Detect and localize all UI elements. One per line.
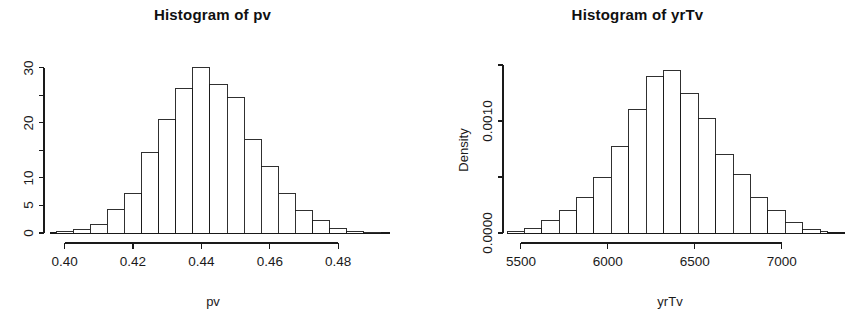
histogram-bar <box>295 211 312 233</box>
y-tick-label: 0.0010 <box>481 100 495 141</box>
y-tick-label: 20 <box>22 115 36 130</box>
histogram-bar <box>803 230 820 233</box>
x-tick-label: 0.40 <box>51 255 77 269</box>
histogram-bar <box>507 232 524 233</box>
histogram-bar <box>124 193 141 233</box>
histogram-bar <box>681 93 698 233</box>
y-tick-label: 30 <box>22 60 36 75</box>
y-tick-label: 10 <box>22 170 36 185</box>
figure-canvas: Histogram of pv pv 0.400.420.440.460.480… <box>0 0 850 317</box>
histogram-bar <box>330 228 347 233</box>
x-axis-title-pv: pv <box>206 295 220 308</box>
histogram-bar <box>227 98 244 233</box>
x-axis-title-yrtv: yrTv <box>657 295 682 308</box>
histogram-bar <box>820 232 827 233</box>
histogram-bar <box>524 229 541 233</box>
histogram-bar <box>244 139 261 233</box>
histogram-bar <box>261 167 278 233</box>
histogram-bar <box>56 232 73 233</box>
x-tick-label: 7000 <box>767 255 797 269</box>
histogram-bar <box>278 193 295 233</box>
histogram-bar <box>594 177 611 233</box>
histogram-bar <box>750 197 767 233</box>
y-axis-title-density: Density <box>457 128 470 171</box>
histogram-bar <box>90 224 107 233</box>
histogram-bar <box>768 211 785 233</box>
histogram-bar <box>733 175 750 233</box>
panel-histogram-pv: Histogram of pv pv 0.400.420.440.460.480… <box>0 0 425 317</box>
histogram-bar <box>716 155 733 233</box>
panel-histogram-yrtv: Histogram of yrTv Density yrTv 550060006… <box>425 0 850 317</box>
histogram-bar <box>347 232 364 233</box>
histogram-bar <box>664 71 681 233</box>
histogram-bar <box>176 88 193 233</box>
y-tick-label: 0 <box>22 229 36 237</box>
histogram-bar <box>73 230 90 233</box>
histogram-bar <box>210 84 227 233</box>
histogram-bar <box>629 110 646 233</box>
x-tick-label: 6500 <box>680 255 710 269</box>
histogram-bar <box>313 221 330 233</box>
histogram-bar <box>559 211 576 233</box>
x-tick-label: 5500 <box>506 255 536 269</box>
x-tick-label: 6000 <box>593 255 623 269</box>
x-tick-label: 0.44 <box>188 255 214 269</box>
histogram-bar <box>698 119 715 233</box>
y-tick-label: 0.0000 <box>481 212 495 253</box>
histogram-bar <box>193 68 210 233</box>
histogram-bar <box>364 232 381 233</box>
x-tick-label: 0.48 <box>325 255 351 269</box>
y-tick-label: 5 <box>22 202 36 210</box>
x-tick-label: 0.46 <box>257 255 283 269</box>
histogram-bar <box>577 197 594 233</box>
histogram-bar <box>611 147 628 233</box>
histogram-bar <box>107 210 124 233</box>
histogram-bar <box>142 152 159 233</box>
histogram-bar <box>159 120 176 233</box>
histogram-bar <box>646 76 663 233</box>
histogram-bar <box>785 223 802 233</box>
x-tick-label: 0.42 <box>120 255 146 269</box>
plot-svg-pv <box>0 0 425 280</box>
histogram-bar <box>542 221 559 233</box>
